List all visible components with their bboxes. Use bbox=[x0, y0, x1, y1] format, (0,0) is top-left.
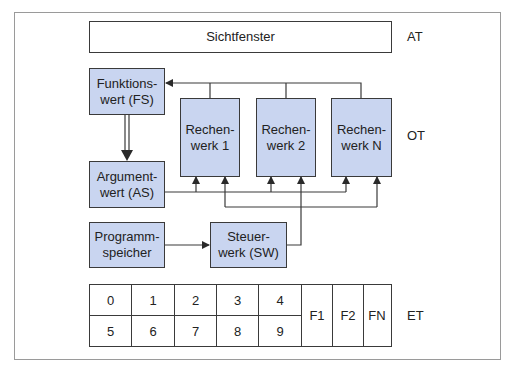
program-memory-line2: speicher bbox=[102, 245, 151, 261]
program-memory-box: Programm- speicher bbox=[89, 222, 165, 268]
key-6[interactable]: 6 bbox=[132, 316, 175, 346]
key-3[interactable]: 3 bbox=[217, 285, 259, 316]
alu-2-line2: werk 2 bbox=[267, 138, 305, 154]
function-register-box: Funktions- wert (FS) bbox=[89, 68, 165, 115]
alu-1-line2: werk 1 bbox=[191, 138, 229, 154]
alu-n-line2: werk N bbox=[341, 138, 381, 154]
alu-2-box: Rechen- werk 2 bbox=[256, 98, 316, 177]
display-window: Sichtfenster bbox=[89, 21, 392, 53]
alu-1-box: Rechen- werk 1 bbox=[180, 98, 240, 177]
key-8[interactable]: 8 bbox=[217, 316, 259, 346]
key-0[interactable]: 0 bbox=[90, 285, 132, 316]
key-5[interactable]: 5 bbox=[90, 316, 132, 346]
layer-label-at: AT bbox=[407, 29, 423, 44]
function-register-line1: Funktions- bbox=[97, 76, 158, 92]
argument-register-line2: wert (AS) bbox=[100, 185, 154, 201]
key-7[interactable]: 7 bbox=[175, 316, 217, 346]
control-unit-line2: werk (SW) bbox=[218, 245, 279, 261]
key-fn[interactable]: FN bbox=[364, 285, 390, 346]
argument-register-line1: Argument- bbox=[97, 169, 158, 185]
control-unit-box: Steuer- werk (SW) bbox=[210, 222, 287, 268]
function-register-line2: wert (FS) bbox=[100, 92, 153, 108]
key-1[interactable]: 1 bbox=[132, 285, 175, 316]
argument-register-box: Argument- wert (AS) bbox=[89, 161, 165, 208]
layer-label-et: ET bbox=[407, 308, 424, 323]
keypad: 0 1 2 3 4 5 6 7 8 9 F1 F2 FN bbox=[89, 284, 392, 347]
display-label: Sichtfenster bbox=[206, 29, 275, 45]
layer-label-ot: OT bbox=[407, 128, 425, 143]
key-2[interactable]: 2 bbox=[175, 285, 217, 316]
key-9[interactable]: 9 bbox=[259, 316, 302, 346]
key-4[interactable]: 4 bbox=[259, 285, 302, 316]
key-f1[interactable]: F1 bbox=[302, 285, 333, 346]
alu-1-line1: Rechen- bbox=[185, 122, 234, 138]
program-memory-line1: Programm- bbox=[94, 229, 159, 245]
alu-2-line1: Rechen- bbox=[261, 122, 310, 138]
alu-n-line1: Rechen- bbox=[337, 122, 386, 138]
alu-n-box: Rechen- werk N bbox=[331, 98, 392, 177]
control-unit-line1: Steuer- bbox=[227, 229, 270, 245]
key-f2[interactable]: F2 bbox=[333, 285, 364, 346]
